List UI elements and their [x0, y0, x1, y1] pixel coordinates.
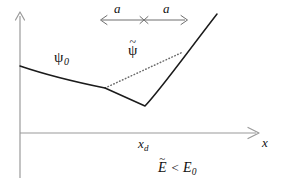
- psi-zero-curve: [20, 14, 217, 106]
- less-than-icon: <: [172, 160, 179, 175]
- energy-tilde-wrap: ~E: [158, 161, 167, 175]
- psi-zero-label: ψ0: [54, 50, 69, 67]
- dimension-label-a-left: a: [114, 2, 121, 15]
- energy-reference-subscript: 0: [192, 167, 197, 177]
- psi-tilde-curve: [105, 52, 183, 88]
- x-d-glyph: x: [138, 136, 144, 151]
- tilde-accent-icon: ~: [129, 36, 136, 48]
- x-axis-label: x: [262, 136, 268, 149]
- psi-tilde-glyph-wrap: ~ψ: [128, 43, 137, 58]
- figure-root: ψ0 ~ψ a a xd x ~E <E0: [0, 0, 281, 191]
- x-d-subscript: d: [144, 143, 149, 153]
- energy-reference-glyph: E: [183, 160, 192, 175]
- psi-zero-glyph: ψ: [54, 49, 63, 65]
- energy-condition-label: ~E <E0: [158, 161, 197, 178]
- dimension-label-a-right: a: [163, 2, 170, 15]
- dimension-line-group: [101, 16, 188, 25]
- tilde-accent-icon: ~: [159, 153, 165, 164]
- psi-tilde-label: ~ψ: [128, 43, 137, 58]
- x-d-tick-label: xd: [138, 137, 149, 153]
- figure-canvas: [0, 0, 281, 191]
- psi-zero-subscript: 0: [64, 56, 69, 67]
